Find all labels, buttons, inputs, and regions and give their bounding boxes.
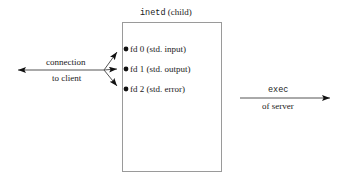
box-title-suffix: (child) <box>166 7 192 17</box>
box-title: inetd (child) <box>140 7 192 18</box>
connection-label-line-2: to client <box>52 73 81 83</box>
exec-label-line-1: exec <box>268 85 288 95</box>
inetd-child-diagram: inetd (child) fd 0 (std. input) fd 1 (st… <box>0 0 346 185</box>
branch-line-fd-1 <box>104 69 117 70</box>
fd-2-dot <box>124 87 129 92</box>
fd-1-label: fd 1 (std. output) <box>130 64 191 74</box>
fd-1-dot <box>124 67 129 72</box>
connection-label-line-1: connection <box>46 57 86 67</box>
fd-0-dot <box>124 47 129 52</box>
exec-label-line-2: of server <box>262 101 294 111</box>
fd-0-label: fd 0 (std. input) <box>130 44 186 54</box>
fd-2-label: fd 2 (std. error) <box>130 84 185 94</box>
branch-line-fd-2 <box>104 70 117 86</box>
box-title-command: inetd <box>140 8 166 18</box>
branch-line-fd-0 <box>104 52 117 70</box>
